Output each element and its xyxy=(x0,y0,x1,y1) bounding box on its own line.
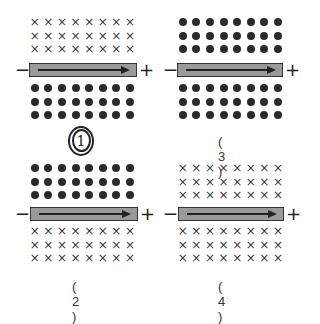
field-cross-icon: × xyxy=(258,224,272,238)
field-cross-icon: × xyxy=(82,252,96,266)
field-cross-icon: × xyxy=(176,224,190,238)
field-dot-icon xyxy=(244,43,258,57)
field-cross-icon: × xyxy=(244,252,258,266)
field-cross-icon: × xyxy=(123,224,137,238)
field-dot-icon xyxy=(244,109,258,123)
field-dot-icon xyxy=(244,81,258,95)
field-cross-icon: × xyxy=(28,15,42,29)
panel-label: ( 2 ) xyxy=(72,279,81,324)
field-cross-icon: × xyxy=(203,189,217,203)
field-cross-icon: × xyxy=(230,189,244,203)
field-dot-icon xyxy=(69,109,83,123)
field-cross-icon: × xyxy=(190,161,204,175)
field-cross-icon: × xyxy=(110,252,124,266)
field-cross-icon: × xyxy=(123,252,137,266)
field-cross-icon: × xyxy=(110,15,124,29)
field-cross-icon: × xyxy=(28,224,42,238)
field-dot-icon xyxy=(176,29,190,43)
field-dot-icon xyxy=(82,109,96,123)
field-dot-icon xyxy=(203,81,217,95)
field-dot-icon xyxy=(96,161,110,175)
field-dot-icon xyxy=(176,109,190,123)
field-cross-icon: × xyxy=(258,175,272,189)
field-cross-icon: × xyxy=(96,224,110,238)
current-arrow-line xyxy=(38,69,122,71)
arrow-right-icon xyxy=(267,66,276,74)
current-arrow-line xyxy=(186,69,268,71)
field-cross-icon: × xyxy=(96,29,110,43)
field-cross-icon: × xyxy=(217,175,231,189)
field-cross-icon: × xyxy=(42,224,56,238)
field-dot-icon xyxy=(203,15,217,29)
field-dot-icon xyxy=(258,109,272,123)
field-dot-icon xyxy=(69,81,83,95)
field-cross-icon: × xyxy=(82,15,96,29)
field-dot-icon xyxy=(55,109,69,123)
field-cross-icon: × xyxy=(42,238,56,252)
field-dot-icon xyxy=(55,189,69,203)
field-cross-icon: × xyxy=(258,161,272,175)
field-cross-icon: × xyxy=(69,252,83,266)
field-cross-icon: × xyxy=(203,224,217,238)
field-dot-icon xyxy=(28,81,42,95)
field-dot-icon xyxy=(258,95,272,109)
field-dot-icon xyxy=(110,81,124,95)
field-dot-icon xyxy=(217,109,231,123)
field-cross-icon: × xyxy=(203,161,217,175)
field-cross-icon: × xyxy=(244,224,258,238)
field-dot-icon xyxy=(271,29,285,43)
field-cross-icon: × xyxy=(96,15,110,29)
field-cross-icon: × xyxy=(42,29,56,43)
field-dot-icon xyxy=(123,175,137,189)
field-dot-icon xyxy=(82,161,96,175)
field-cross-icon: × xyxy=(271,252,285,266)
arrow-right-icon xyxy=(268,210,277,218)
field-dot-icon xyxy=(190,43,204,57)
field-out-of-page-bottom xyxy=(28,81,137,122)
field-dot-icon xyxy=(217,15,231,29)
field-into-page-top: ×××××××××××××××××××××××× xyxy=(28,15,137,56)
field-cross-icon: × xyxy=(244,161,258,175)
field-cross-icon: × xyxy=(55,238,69,252)
field-dot-icon xyxy=(217,29,231,43)
field-dot-icon xyxy=(271,109,285,123)
field-dot-icon xyxy=(203,29,217,43)
field-dot-icon xyxy=(230,43,244,57)
field-dot-icon xyxy=(110,109,124,123)
field-cross-icon: × xyxy=(69,15,83,29)
field-dot-icon xyxy=(69,189,83,203)
field-dot-icon xyxy=(217,95,231,109)
field-dot-icon xyxy=(230,29,244,43)
field-dot-icon xyxy=(42,161,56,175)
field-cross-icon: × xyxy=(217,224,231,238)
field-cross-icon: × xyxy=(190,252,204,266)
field-dot-icon xyxy=(69,95,83,109)
field-dot-icon xyxy=(28,189,42,203)
field-cross-icon: × xyxy=(69,43,83,57)
field-dot-icon xyxy=(123,95,137,109)
field-cross-icon: × xyxy=(55,15,69,29)
field-cross-icon: × xyxy=(230,252,244,266)
field-cross-icon: × xyxy=(217,161,231,175)
field-cross-icon: × xyxy=(110,43,124,57)
field-cross-icon: × xyxy=(123,43,137,57)
field-dot-icon xyxy=(176,95,190,109)
field-cross-icon: × xyxy=(203,252,217,266)
field-cross-icon: × xyxy=(190,189,204,203)
field-cross-icon: × xyxy=(190,238,204,252)
field-cross-icon: × xyxy=(271,224,285,238)
field-dot-icon xyxy=(82,189,96,203)
field-dot-icon xyxy=(28,109,42,123)
field-cross-icon: × xyxy=(176,189,190,203)
field-cross-icon: × xyxy=(42,252,56,266)
field-dot-icon xyxy=(82,95,96,109)
field-cross-icon: × xyxy=(28,29,42,43)
field-cross-icon: × xyxy=(55,252,69,266)
field-cross-icon: × xyxy=(217,252,231,266)
field-dot-icon xyxy=(110,189,124,203)
field-dot-icon xyxy=(55,95,69,109)
field-dot-icon xyxy=(190,95,204,109)
current-bar xyxy=(29,63,137,77)
field-dot-icon xyxy=(96,175,110,189)
current-bar xyxy=(178,207,284,221)
